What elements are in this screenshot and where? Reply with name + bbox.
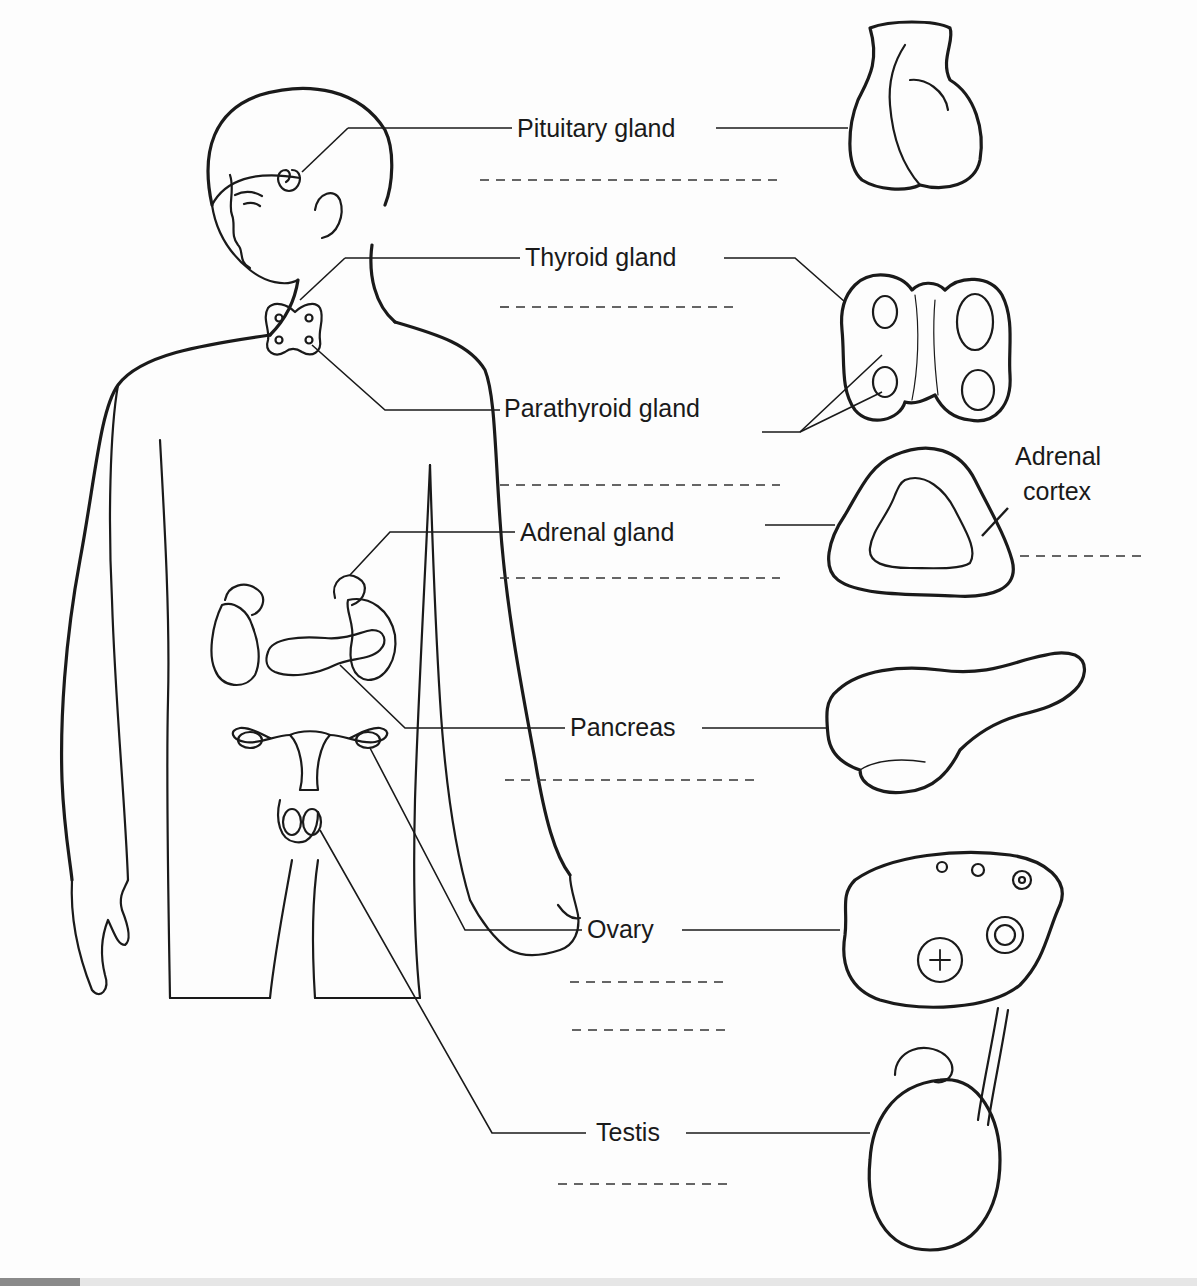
human-body-outline xyxy=(62,88,580,998)
label-adrenal-cortex: Adrenal cortex xyxy=(982,442,1146,556)
pancreas-in-body xyxy=(266,630,384,675)
svg-text:Adrenal: Adrenal xyxy=(1015,442,1101,470)
svg-text:Pituitary gland: Pituitary gland xyxy=(517,114,675,142)
svg-text:Ovary: Ovary xyxy=(587,915,654,943)
svg-text:Parathyroid gland: Parathyroid gland xyxy=(504,394,700,422)
scrollbar-thumb[interactable] xyxy=(0,1278,80,1286)
label-testis: Testis xyxy=(320,830,870,1184)
svg-text:Testis: Testis xyxy=(596,1118,660,1146)
label-pituitary: Pituitary gland xyxy=(302,114,848,180)
label-thyroid: Thyroid gland xyxy=(300,243,845,307)
uterus-ovaries-in-body xyxy=(233,728,387,790)
svg-text:cortex: cortex xyxy=(1023,477,1092,505)
label-pancreas: Pancreas xyxy=(340,665,828,780)
testis-detail-icon xyxy=(869,1008,1008,1250)
ovary-detail-icon xyxy=(844,852,1062,1007)
label-parathyroid: Parathyroid gland xyxy=(312,345,882,485)
pancreas-detail-icon xyxy=(827,653,1085,793)
label-ovary: Ovary xyxy=(370,748,840,1030)
label-adrenal: Adrenal gland xyxy=(350,518,835,578)
svg-text:Thyroid gland: Thyroid gland xyxy=(525,243,676,271)
svg-text:Adrenal gland: Adrenal gland xyxy=(520,518,674,546)
adrenal-detail-icon xyxy=(829,448,1014,596)
svg-text:Pancreas: Pancreas xyxy=(570,713,676,741)
endocrine-diagram: Pituitary gland Thyroid gland Parathyroi… xyxy=(0,0,1197,1286)
pituitary-in-body xyxy=(278,170,300,191)
pituitary-detail-icon xyxy=(850,22,981,189)
horizontal-scrollbar[interactable] xyxy=(0,1278,1197,1286)
testes-in-body xyxy=(278,800,321,842)
